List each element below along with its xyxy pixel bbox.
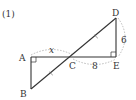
geometry-figure: (1) A B C D E x 8 6 [0, 0, 136, 100]
label-d: D [112, 8, 119, 18]
measure-ac: x [49, 45, 54, 55]
right-angle-e-icon [111, 52, 116, 57]
label-a: A [18, 53, 26, 63]
measure-de: 6 [121, 35, 127, 45]
label-c: C [69, 61, 76, 71]
label-b: B [20, 89, 27, 99]
measure-ce: 8 [92, 61, 98, 71]
label-e: E [113, 61, 120, 71]
problem-number: (1) [2, 9, 15, 19]
right-angle-a-icon [31, 57, 36, 62]
segment-bd [31, 18, 116, 89]
